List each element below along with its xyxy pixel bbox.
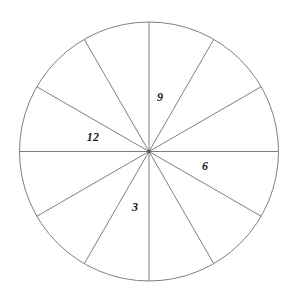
sector-label-three: 3 (132, 201, 138, 213)
center-dot (147, 150, 151, 154)
sector-label-twelve: 12 (87, 131, 99, 143)
sector-label-nine: 9 (157, 91, 163, 103)
clock-sector-diagram: 9 12 6 3 (0, 0, 293, 303)
circle-sector-graphic (0, 0, 293, 303)
sector-label-six: 6 (202, 160, 208, 172)
